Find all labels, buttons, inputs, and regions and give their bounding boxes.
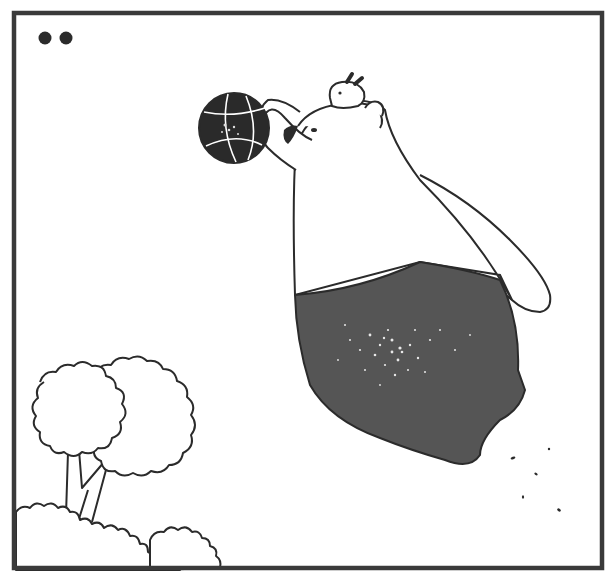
bear-eye (311, 128, 317, 132)
bunny-eye (338, 91, 341, 94)
comic-panel: Comic panel: a polar bear in dark shorts… (0, 0, 610, 579)
basketball (199, 93, 269, 163)
